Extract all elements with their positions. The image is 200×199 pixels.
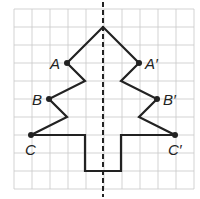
point-label: C′ (168, 141, 183, 158)
point-label: B (32, 91, 42, 108)
point-label: C (25, 141, 36, 158)
point-dot (172, 132, 178, 138)
point-label: B′ (163, 91, 177, 108)
point-dot (64, 60, 70, 66)
point-dot (136, 60, 142, 66)
point-dot (154, 96, 160, 102)
reflection-diagram: ABCA′B′C′ (0, 0, 200, 199)
point-dot (46, 96, 52, 102)
point-label: A′ (144, 55, 159, 72)
point-label: A (49, 55, 60, 72)
point-dot (28, 132, 34, 138)
